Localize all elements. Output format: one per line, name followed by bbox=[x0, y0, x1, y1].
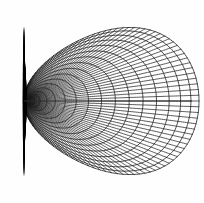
figure-canvas bbox=[0, 0, 204, 203]
conformal-grid-svg bbox=[0, 0, 204, 203]
